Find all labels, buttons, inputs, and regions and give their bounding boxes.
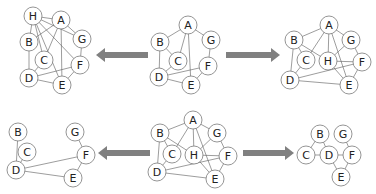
node-label: G xyxy=(207,34,216,47)
node-h: H xyxy=(185,146,203,164)
node-label: A xyxy=(325,19,333,32)
node-a: A xyxy=(179,16,197,34)
top-right-arrow xyxy=(226,48,280,62)
node-label: B xyxy=(156,127,164,140)
node-label: A xyxy=(189,114,197,127)
node-label: F xyxy=(359,56,365,69)
node-c: C xyxy=(35,51,53,69)
node-b: B xyxy=(20,33,38,51)
node-g: G xyxy=(73,30,91,48)
node-b: B xyxy=(9,123,27,141)
node-d: D xyxy=(320,146,338,164)
node-label: G xyxy=(339,128,348,141)
node-b: B xyxy=(151,124,169,142)
graph-transformation-diagram: HAGBCFDEAGBCFDEABGCHFDEABGCHFDEBGCFDEBGC… xyxy=(0,0,376,194)
node-c: C xyxy=(169,52,187,70)
node-d: D xyxy=(150,68,168,86)
node-label: B xyxy=(14,126,22,139)
node-label: A xyxy=(57,14,65,27)
node-label: F xyxy=(77,59,83,72)
node-label: B xyxy=(25,36,33,49)
node-e: E xyxy=(332,168,350,186)
node-a: A xyxy=(320,16,338,34)
node-b: B xyxy=(151,33,169,51)
node-label: A xyxy=(184,19,192,32)
node-a: A xyxy=(184,111,202,129)
node-label: E xyxy=(346,79,353,92)
node-e: E xyxy=(340,76,358,94)
node-label: D xyxy=(25,72,33,85)
node-g: G xyxy=(342,31,360,49)
contracted-graph: BGCDFE xyxy=(297,125,361,186)
node-e: E xyxy=(53,76,71,94)
node-label: F xyxy=(205,60,211,73)
node-label: C xyxy=(302,54,310,67)
node-c: C xyxy=(18,143,36,161)
node-label: H xyxy=(190,149,198,162)
node-label: E xyxy=(59,79,66,92)
node-label: C xyxy=(23,146,31,159)
node-a: A xyxy=(52,11,70,29)
node-label: G xyxy=(347,34,356,47)
node-label: C xyxy=(174,55,182,68)
node-label: E xyxy=(188,79,195,92)
node-b: B xyxy=(285,31,303,49)
node-f: F xyxy=(219,147,237,165)
node-g: G xyxy=(208,124,226,142)
graph-with-h-source: ABGCHFDE xyxy=(148,111,237,188)
node-label: B xyxy=(316,128,324,141)
node-c: C xyxy=(297,51,315,69)
node-g: G xyxy=(66,123,84,141)
node-d: D xyxy=(20,69,38,87)
node-b: B xyxy=(311,125,329,143)
node-label: F xyxy=(83,149,89,162)
node-label: C xyxy=(302,149,310,162)
node-d: D xyxy=(148,163,166,181)
node-label: G xyxy=(213,127,222,140)
node-f: F xyxy=(343,146,361,164)
node-h: H xyxy=(24,7,42,25)
node-h: H xyxy=(319,52,337,70)
node-label: E xyxy=(70,172,77,185)
node-label: D xyxy=(325,149,333,162)
node-d: D xyxy=(7,161,25,179)
original-graph: AGBCFDE xyxy=(150,16,220,94)
subgraph-without-a-h: BGCFDE xyxy=(7,123,95,187)
node-label: H xyxy=(29,10,37,23)
node-g: G xyxy=(202,31,220,49)
bottom-left-arrow xyxy=(98,146,150,160)
node-e: E xyxy=(206,170,224,188)
node-f: F xyxy=(71,56,89,74)
node-label: D xyxy=(286,74,294,87)
node-label: D xyxy=(153,166,161,179)
node-label: G xyxy=(71,126,80,139)
node-g: G xyxy=(334,125,352,143)
graph-with-h-added: ABGCHFDE xyxy=(281,16,371,94)
node-label: C xyxy=(168,148,176,161)
node-d: D xyxy=(281,71,299,89)
node-label: C xyxy=(40,54,48,67)
top-left-arrow xyxy=(96,48,148,62)
node-label: F xyxy=(225,150,231,163)
node-label: D xyxy=(12,164,20,177)
node-f: F xyxy=(353,53,371,71)
node-label: E xyxy=(338,171,345,184)
node-c: C xyxy=(163,145,181,163)
node-label: G xyxy=(78,33,87,46)
node-label: D xyxy=(155,71,163,84)
node-label: E xyxy=(212,173,219,186)
node-c: C xyxy=(297,146,315,164)
node-label: H xyxy=(324,55,332,68)
node-e: E xyxy=(64,169,82,187)
node-f: F xyxy=(199,57,217,75)
node-f: F xyxy=(77,146,95,164)
node-label: B xyxy=(290,34,298,47)
bottom-right-arrow xyxy=(243,146,294,160)
node-e: E xyxy=(182,76,200,94)
node-label: F xyxy=(349,149,355,162)
graph-with-h-combined: HAGBCFDE xyxy=(20,7,91,94)
node-label: B xyxy=(156,36,164,49)
